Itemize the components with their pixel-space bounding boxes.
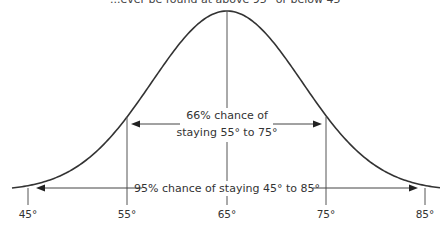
inner-annotation-line2: staying 55° to 75°	[177, 126, 278, 139]
outer-arrow-right-head	[409, 185, 418, 192]
outer-arrow-left-head	[36, 185, 45, 192]
axis-label-75: 75°	[317, 208, 336, 220]
axis-label-55: 55°	[118, 208, 137, 220]
axis-label-45: 45°	[19, 208, 38, 220]
axis-label-65: 65°	[218, 208, 237, 220]
top-caption: ...ever be found at above 95° or below 4…	[110, 0, 346, 6]
axis-label-85: 85°	[416, 208, 435, 220]
outer-annotation: 95% chance of staying 45° to 85°	[134, 182, 320, 195]
inner-arrow-right-head	[313, 121, 322, 128]
bell-curve	[12, 11, 440, 188]
inner-annotation-line1: 66% chance of	[186, 109, 269, 122]
inner-arrow-left-head	[131, 121, 140, 128]
bell-curve-diagram: ...ever be found at above 95° or below 4…	[0, 0, 448, 230]
